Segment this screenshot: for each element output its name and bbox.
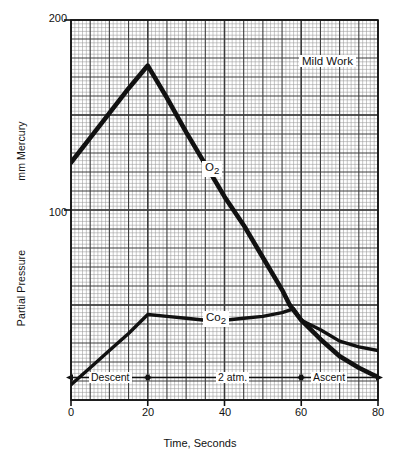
series-label-o2: O2 — [202, 161, 222, 177]
series-label-o2-text: O — [205, 161, 214, 173]
x-tick-label-20: 20 — [135, 406, 161, 418]
phase-label-descent: Descent — [89, 372, 132, 383]
y-tick-label-100: 100 — [31, 206, 67, 218]
y-axis-title-lower: Partial Pressure — [15, 245, 27, 331]
x-axis-title: Time, Seconds — [120, 437, 280, 449]
y-tick-label-200: 200 — [31, 12, 67, 24]
series-label-co2-text: Co — [206, 311, 221, 323]
x-tick-label-40: 40 — [212, 406, 238, 418]
phase-label-ascent: Ascent — [311, 372, 347, 383]
phase-label-2atm: 2 atm. — [216, 372, 249, 383]
series-label-co2: Co2 — [203, 311, 229, 327]
x-tick-label-80: 80 — [365, 406, 391, 418]
annotation-mild-work: Mild Work — [299, 55, 356, 67]
x-tick-label-0: 0 — [58, 406, 84, 418]
series-label-co2-sub: 2 — [221, 315, 226, 326]
x-tick-label-60: 60 — [288, 406, 314, 418]
series-label-o2-sub: 2 — [214, 165, 219, 176]
chart-figure: mm Mercury Partial Pressure 200 100 0 20… — [0, 0, 394, 462]
partial-pressure-line-chart — [0, 0, 394, 462]
y-axis-title-upper: mm Mercury — [15, 116, 27, 186]
